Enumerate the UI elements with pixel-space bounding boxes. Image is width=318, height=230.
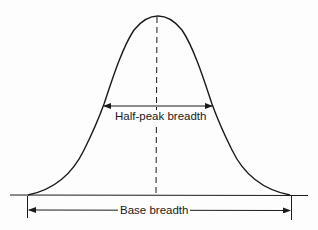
peak-diagram: Half-peak breadth Base breadth	[0, 0, 318, 230]
base-breadth-label: Base breadth	[118, 204, 190, 217]
half-peak-label: Half-peak breadth	[113, 110, 208, 123]
baseline	[10, 195, 308, 196]
